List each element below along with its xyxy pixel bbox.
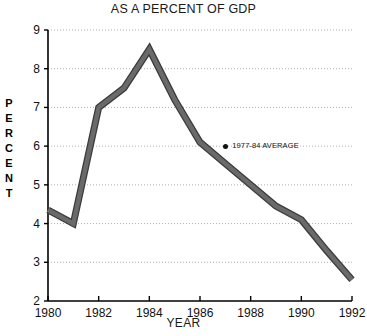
axis-lines — [48, 30, 352, 301]
y-tick-label: 6 — [18, 140, 40, 152]
y-tick-label: 4 — [18, 218, 40, 230]
data-line — [48, 49, 352, 279]
x-tick-label: 1988 — [230, 307, 272, 319]
y-tick-label: 7 — [18, 101, 40, 113]
chart-container: AS A PERCENT OF GDP P E R C E N T YEAR 9… — [0, 0, 367, 336]
axis-ticks — [44, 30, 352, 301]
x-tick-label: 1990 — [280, 307, 322, 319]
y-tick-label: 3 — [18, 256, 40, 268]
x-tick-label: 1992 — [331, 307, 367, 319]
series-line — [48, 49, 352, 279]
annotation-marker-icon — [223, 144, 228, 149]
x-tick-label: 1980 — [27, 307, 69, 319]
y-tick-label: 5 — [18, 179, 40, 191]
y-tick-label: 8 — [18, 63, 40, 75]
annotation-label: 1977-84 AVERAGE — [232, 141, 298, 150]
x-tick-label: 1986 — [179, 307, 221, 319]
plot-area — [0, 0, 367, 336]
x-tick-label: 1982 — [78, 307, 120, 319]
x-tick-label: 1984 — [128, 307, 170, 319]
y-tick-label: 9 — [18, 24, 40, 36]
series-line-outline — [48, 49, 352, 279]
